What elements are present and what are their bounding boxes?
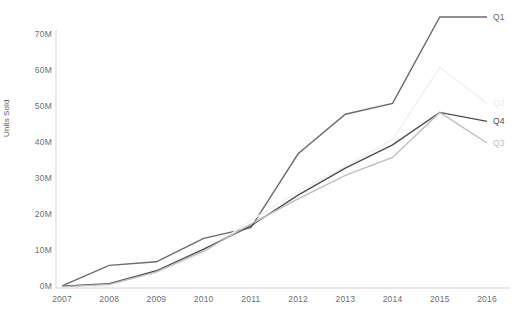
series-label-q4: Q4: [493, 116, 505, 126]
x-tick-label: 2008: [84, 294, 134, 304]
x-tick-label: 2015: [415, 294, 465, 304]
x-tick-label: 2011: [226, 294, 276, 304]
x-tick-label: 2016: [462, 294, 512, 304]
x-tick-label: 2007: [37, 294, 87, 304]
y-tick-label: 50M: [4, 101, 52, 111]
line-chart: 0M10M20M30M40M50M60M70M 2007200820092010…: [0, 0, 523, 316]
y-tick-label: 40M: [4, 137, 52, 147]
y-tick-label: 0M: [4, 281, 52, 291]
y-tick-label: 10M: [4, 245, 52, 255]
y-tick-label: 60M: [4, 65, 52, 75]
series-line-q2: [62, 67, 487, 286]
x-tick-label: 2010: [179, 294, 229, 304]
series-label-q1: Q1: [493, 12, 505, 22]
series-label-q2: Q2: [493, 98, 505, 108]
x-tick-label: 2013: [320, 294, 370, 304]
series-line-q1: [62, 17, 487, 286]
y-tick-label: 30M: [4, 173, 52, 183]
x-tick-label: 2014: [368, 294, 418, 304]
x-tick-label: 2012: [273, 294, 323, 304]
chart-plot-area: [0, 0, 523, 316]
series-label-q3: Q3: [493, 138, 505, 148]
y-axis-title: Units Sold: [2, 57, 11, 137]
y-tick-label: 70M: [4, 29, 52, 39]
x-tick-label: 2009: [131, 294, 181, 304]
series-line-q4: [62, 112, 487, 286]
y-axis-ticks: 0M10M20M30M40M50M60M70M: [0, 0, 52, 316]
y-tick-label: 20M: [4, 209, 52, 219]
series-line-q3: [62, 112, 487, 286]
series-group: [62, 17, 487, 287]
